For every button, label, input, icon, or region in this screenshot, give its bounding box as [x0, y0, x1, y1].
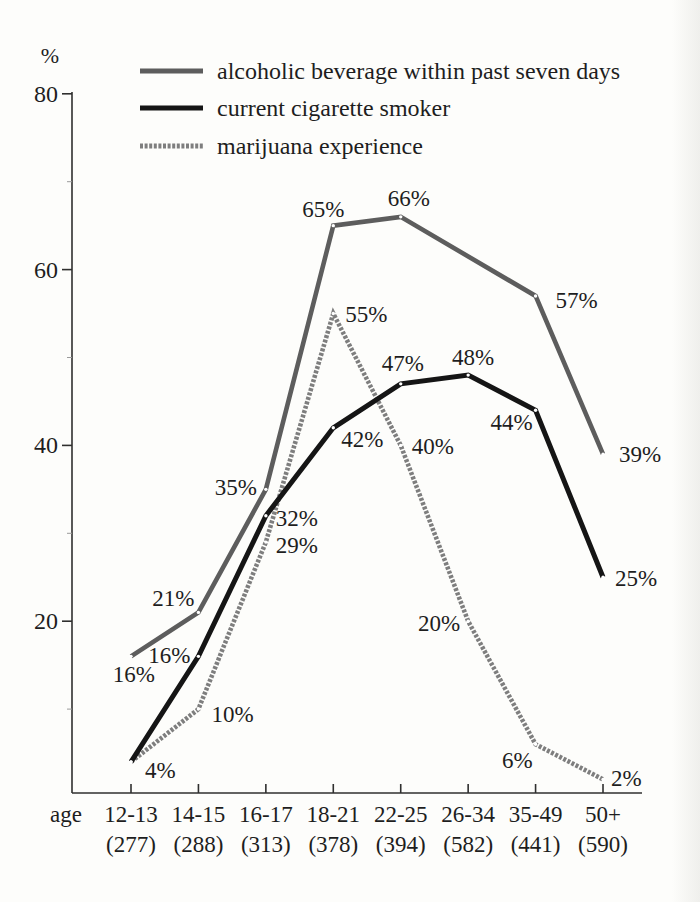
- data-point-cigarette: [534, 409, 537, 412]
- data-point-marijuana: [601, 778, 604, 781]
- y-tick-label: 80: [34, 81, 58, 107]
- data-label-marijuana: 2%: [611, 766, 642, 791]
- legend-label-marijuana: marijuana experience: [217, 133, 423, 159]
- scanned-survey-chart-page: 80604020%12-13(277)14-15(288)16-17(313)1…: [0, 0, 700, 902]
- x-category-count-label: (590): [578, 832, 628, 857]
- x-category-label: 14-15: [172, 802, 226, 827]
- data-point-cigarette: [197, 655, 200, 658]
- x-category-label: 50+: [585, 802, 621, 827]
- legend-label-cigarette: current cigarette smoker: [217, 95, 450, 121]
- data-label-marijuana: 40%: [412, 434, 454, 459]
- data-point-cigarette: [466, 373, 469, 376]
- series-line-marijuana: [131, 314, 603, 780]
- y-tick-label: 40: [34, 432, 58, 458]
- x-category-label: 26-34: [441, 802, 495, 827]
- x-category-count-label: (441): [511, 832, 561, 857]
- data-label-marijuana: 55%: [345, 302, 387, 327]
- data-label-cigarette: 47%: [382, 351, 424, 376]
- x-category-count-label: (378): [308, 832, 358, 857]
- data-label-marijuana: 10%: [211, 702, 253, 727]
- data-point-alcohol: [264, 488, 267, 491]
- data-label-cigarette: 42%: [341, 427, 383, 452]
- data-label-marijuana: 6%: [502, 748, 533, 773]
- data-label-cigarette: 4%: [145, 758, 176, 783]
- data-point-marijuana: [399, 444, 402, 447]
- data-label-cigarette: 25%: [615, 566, 657, 591]
- data-label-alcohol: 65%: [302, 197, 344, 222]
- data-point-marijuana: [197, 707, 200, 710]
- x-category-count-label: (288): [174, 832, 224, 857]
- x-category-label: 16-17: [239, 802, 293, 827]
- data-point-cigarette: [332, 426, 335, 429]
- data-point-marijuana: [466, 620, 469, 623]
- data-point-alcohol: [332, 224, 335, 227]
- data-point-marijuana: [534, 743, 537, 746]
- data-point-alcohol: [197, 611, 200, 614]
- data-point-marijuana: [332, 312, 335, 315]
- x-category-count-label: (277): [106, 832, 156, 857]
- data-point-alcohol: [129, 655, 132, 658]
- data-point-cigarette: [264, 514, 267, 517]
- x-category-label: 12-13: [104, 802, 158, 827]
- data-label-cigarette: 48%: [452, 345, 494, 370]
- data-label-marijuana: 29%: [276, 533, 318, 558]
- data-label-alcohol: 57%: [556, 288, 598, 313]
- data-point-marijuana: [264, 540, 267, 543]
- data-label-cigarette: 44%: [490, 410, 532, 435]
- data-point-cigarette: [399, 382, 402, 385]
- data-label-alcohol: 66%: [388, 186, 430, 211]
- x-category-count-label: (313): [241, 832, 291, 857]
- data-point-alcohol: [601, 452, 604, 455]
- data-point-cigarette: [601, 576, 604, 579]
- x-category-count-label: (582): [443, 832, 493, 857]
- data-label-cigarette: 16%: [148, 643, 190, 668]
- data-label-alcohol: 35%: [215, 475, 257, 500]
- data-label-marijuana: 20%: [418, 611, 460, 636]
- x-category-label: 18-21: [306, 802, 360, 827]
- x-category-label: 35-49: [509, 802, 563, 827]
- data-point-alcohol: [534, 294, 537, 297]
- x-category-count-label: (394): [376, 832, 426, 857]
- data-label-alcohol: 21%: [152, 586, 194, 611]
- y-axis-unit-label: %: [41, 43, 59, 68]
- data-point-cigarette: [129, 760, 132, 763]
- x-axis-title: age: [50, 802, 82, 827]
- data-point-alcohol: [399, 215, 402, 218]
- y-tick-label: 60: [34, 257, 58, 283]
- x-category-label: 22-25: [374, 802, 428, 827]
- data-label-cigarette: 32%: [276, 506, 318, 531]
- data-label-alcohol: 39%: [619, 442, 661, 467]
- y-tick-label: 20: [34, 608, 58, 634]
- substance-use-by-age-line-chart: 80604020%12-13(277)14-15(288)16-17(313)1…: [0, 0, 700, 902]
- legend-label-alcohol: alcoholic beverage within past seven day…: [217, 58, 620, 84]
